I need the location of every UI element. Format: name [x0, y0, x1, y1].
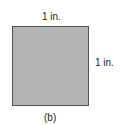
figure-caption: (b) — [44, 113, 56, 123]
square-shape — [12, 26, 89, 106]
top-dimension-label: 1 in. — [42, 12, 61, 22]
right-dimension-label: 1 in. — [95, 58, 114, 68]
